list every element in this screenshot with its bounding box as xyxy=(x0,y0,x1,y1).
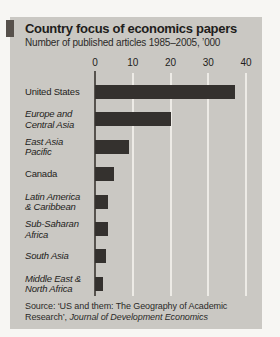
gridline-10 xyxy=(132,73,134,296)
category-label: Latin America& Caribbean xyxy=(25,191,80,212)
gridline-30 xyxy=(207,73,209,296)
x-tick-label-20: 20 xyxy=(159,57,183,68)
source-note: Source: ‘US and them: The Geography of A… xyxy=(25,301,255,323)
category-label-line: & Caribbean xyxy=(25,202,80,213)
category-label-line: Pacific xyxy=(25,147,63,158)
category-label: East AsiaPacific xyxy=(25,136,63,157)
category-label-line: South Asia xyxy=(25,251,69,262)
category-label-line: Central Asia xyxy=(25,119,74,130)
category-label-line: United States xyxy=(25,87,79,98)
x-tick-label-0: 0 xyxy=(83,57,107,68)
category-label: Sub-SaharanAfrica xyxy=(25,219,79,240)
category-label-line: North Africa xyxy=(25,284,81,295)
bar-south-asia xyxy=(95,249,106,263)
chart-panel: Country focus of economics papers Number… xyxy=(10,17,262,329)
category-label-line: Middle East & xyxy=(25,273,81,284)
x-tick-label-10: 10 xyxy=(121,57,145,68)
category-label-line: East Asia xyxy=(25,136,63,147)
category-label-line: Europe and xyxy=(25,109,74,120)
bar-middle-east-north-africa xyxy=(95,277,103,291)
category-label-line: Latin America xyxy=(25,191,80,202)
bar-latin-america-caribbean xyxy=(95,195,108,209)
category-label: South Asia xyxy=(25,251,69,262)
category-label: Middle East &North Africa xyxy=(25,273,81,294)
bar-sub-saharan-africa xyxy=(95,222,108,236)
bar-canada xyxy=(95,167,114,181)
category-label: Europe andCentral Asia xyxy=(25,109,74,130)
x-tick-label-30: 30 xyxy=(196,57,220,68)
category-label: Canada xyxy=(25,169,57,180)
x-tick-label-40: 40 xyxy=(234,57,258,68)
gridline-20 xyxy=(170,73,172,296)
bar-united-states xyxy=(95,85,235,99)
bar-east-asia-pacific xyxy=(95,140,129,154)
source-journal: Journal of Development Economics xyxy=(69,312,207,322)
category-label-line: Canada xyxy=(25,169,57,180)
gridline-40 xyxy=(245,73,247,296)
page: Country focus of economics papers Number… xyxy=(0,0,280,337)
bar-chart: 010203040United StatesEurope andCentral … xyxy=(10,17,262,329)
category-label-line: Sub-Saharan xyxy=(25,219,79,230)
category-label-line: Africa xyxy=(25,229,79,240)
bar-europe-and-central-asia xyxy=(95,112,171,126)
category-label: United States xyxy=(25,87,79,98)
